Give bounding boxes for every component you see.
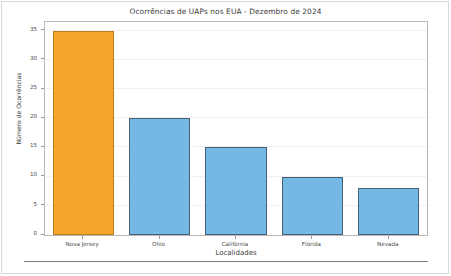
y-axis: Número de Ocorrências 05101520253035 — [0, 21, 44, 236]
x-axis-tick-label: Nevada — [350, 241, 426, 247]
x-axis-tick-label: Califórnia — [197, 241, 273, 247]
y-axis-tick-label: 10 — [30, 171, 37, 177]
y-axis-label: Número de Ocorrências — [15, 34, 22, 184]
bar-series — [45, 22, 427, 235]
y-axis-tick-label: 15 — [30, 142, 37, 148]
bar-chart-figure: Ocorrências de UAPs nos EUA - Dezembro d… — [0, 0, 451, 276]
x-axis-tick-mark — [388, 236, 389, 239]
x-axis-tick-label: Ohio — [120, 241, 196, 247]
bottom-divider — [24, 261, 428, 262]
y-axis-tick-label: 30 — [30, 55, 37, 61]
bar-ohio[interactable] — [129, 118, 190, 235]
plot-area — [44, 21, 428, 236]
chart-title: Ocorrências de UAPs nos EUA - Dezembro d… — [0, 7, 451, 16]
x-axis-tick-mark — [159, 236, 160, 239]
bar-nova-jersey[interactable] — [53, 31, 114, 235]
x-axis-tick-mark — [235, 236, 236, 239]
y-axis-tick-label: 5 — [33, 201, 37, 207]
y-axis-tick-label: 20 — [30, 113, 37, 119]
x-axis-tick-label: Nova Jersey — [44, 241, 120, 247]
x-axis-tick-mark — [82, 236, 83, 239]
x-axis-tick-mark — [311, 236, 312, 239]
screenshot-page: Ocorrências de UAPs nos EUA - Dezembro d… — [0, 0, 451, 276]
x-axis-tick-label: Flórida — [273, 241, 349, 247]
y-axis-tick-label: 0 — [33, 230, 37, 236]
y-axis-tick-label: 35 — [30, 26, 37, 32]
bar-fl-rida[interactable] — [282, 177, 343, 235]
y-axis-tick-label: 25 — [30, 84, 37, 90]
bar-calif-rnia[interactable] — [205, 147, 266, 235]
bar-nevada[interactable] — [358, 188, 419, 235]
x-axis-label: Localidades — [44, 249, 428, 257]
